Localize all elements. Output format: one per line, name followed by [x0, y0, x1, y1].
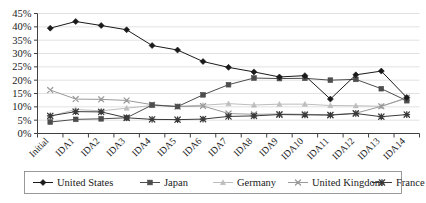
series-line	[50, 22, 407, 100]
chart-legend: United StatesJapanGermanyUnited KingdomF…	[25, 172, 425, 194]
data-point-marker	[124, 27, 130, 33]
legend-label: Japan	[164, 177, 189, 188]
data-point-marker	[200, 116, 206, 122]
data-point-marker	[251, 69, 257, 75]
x-axis-tick-label: IDA13	[355, 135, 382, 162]
data-point-marker	[353, 111, 359, 117]
x-axis-tick-label: IDA1	[53, 135, 76, 158]
legend-label: Germany	[237, 177, 277, 188]
x-axis-tick-label: IDA7	[206, 135, 229, 158]
data-point-marker	[47, 113, 53, 119]
x-axis-tick-label: IDA4	[129, 135, 152, 158]
data-point-marker	[175, 117, 181, 123]
y-axis-tick-label: 25%	[12, 61, 32, 72]
data-point-marker	[378, 114, 384, 120]
x-axis-tick-label: IDA9	[257, 135, 280, 158]
y-axis	[34, 14, 38, 134]
data-point-marker	[47, 25, 53, 31]
data-point-marker	[124, 115, 130, 121]
data-point-marker	[201, 92, 206, 97]
data-point-marker	[150, 103, 155, 108]
line-chart: 0%5%10%15%20%25%30%35%40%45% InitialIDA1…	[0, 0, 426, 203]
x-axis-tick-label: IDA3	[104, 135, 127, 158]
data-point-marker	[48, 120, 53, 125]
data-point-marker	[148, 180, 153, 185]
x-axis-tick-label: IDA10	[279, 135, 306, 162]
data-point-marker	[200, 59, 206, 65]
data-point-marker	[98, 23, 104, 29]
x-axis-tick-label: IDA14	[381, 135, 408, 162]
legend-label: France	[396, 177, 425, 188]
x-axis-tick-labels: InitialIDA1IDA2IDA3IDA4IDA5IDA6IDA7IDA8I…	[27, 135, 408, 162]
x-axis-tick-label: IDA11	[304, 135, 331, 162]
data-point-marker	[404, 112, 410, 118]
data-point-marker	[252, 76, 257, 81]
data-series	[47, 19, 410, 103]
legend-label: United States	[57, 177, 113, 188]
y-axis-tick-label: 20%	[12, 75, 32, 86]
data-point-marker	[149, 43, 155, 49]
data-point-marker	[48, 87, 53, 92]
x-axis-tick-label: IDA12	[330, 135, 357, 162]
data-point-marker	[175, 104, 180, 109]
data-point-marker	[251, 113, 257, 119]
y-axis-tick-label: 40%	[12, 21, 32, 32]
data-point-marker	[149, 117, 155, 123]
y-axis-tick-label: 45%	[12, 8, 32, 19]
y-axis-tick-label: 10%	[12, 101, 32, 112]
data-point-marker	[226, 82, 231, 87]
y-axis-tick-label: 5%	[18, 115, 32, 126]
chart-container: 0%5%10%15%20%25%30%35%40%45% InitialIDA1…	[0, 0, 426, 203]
data-point-marker	[226, 64, 232, 70]
data-point-marker	[328, 78, 333, 83]
data-point-marker	[99, 116, 104, 121]
data-point-marker	[73, 19, 79, 25]
data-point-marker	[379, 180, 385, 186]
data-point-marker	[98, 109, 104, 115]
x-axis-tick-label: IDA6	[180, 135, 203, 158]
y-axis-tick-label: 15%	[12, 88, 32, 99]
y-axis-tick-label: 30%	[12, 48, 32, 59]
x-axis-tick-label: IDA5	[155, 135, 178, 158]
data-point-marker	[175, 47, 181, 53]
data-series-group	[47, 19, 410, 125]
x-axis-tick-label: IDA2	[78, 135, 101, 158]
y-axis-tick-labels: 0%5%10%15%20%25%30%35%40%45%	[12, 8, 32, 139]
data-point-marker	[379, 86, 384, 91]
y-axis-tick-label: 35%	[12, 35, 32, 46]
data-point-marker	[277, 112, 283, 118]
x-axis-tick-label: IDA8	[231, 135, 254, 158]
data-point-marker	[73, 117, 78, 122]
y-axis-tick-label: 0%	[18, 128, 32, 139]
data-point-marker	[328, 112, 334, 118]
data-point-marker	[73, 109, 79, 115]
data-point-marker	[302, 112, 308, 118]
data-point-marker	[226, 114, 232, 120]
